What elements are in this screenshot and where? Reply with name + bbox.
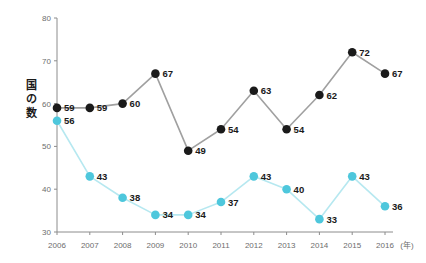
x-tick-label: 2008 — [114, 241, 132, 250]
data-point-label: 67 — [162, 68, 173, 79]
x-tick-label: 2016 — [376, 241, 394, 250]
data-point — [86, 172, 95, 181]
data-point — [86, 104, 95, 113]
data-point — [184, 146, 193, 155]
data-point-label: 49 — [195, 145, 206, 156]
data-point-label: 62 — [326, 90, 337, 101]
data-point-label: 34 — [162, 209, 173, 220]
x-tick-label: 2011 — [212, 241, 230, 250]
data-point — [151, 211, 160, 220]
data-point-label: 40 — [294, 184, 305, 195]
y-axis-title-char: 数 — [26, 106, 38, 119]
line-chart: 国の数 304050607080 20062007200820092010201… — [0, 0, 426, 263]
data-point-label: 38 — [130, 192, 141, 203]
data-point — [348, 48, 357, 57]
data-point — [348, 172, 357, 181]
x-axis-unit-label: (年) — [400, 240, 414, 250]
data-point — [184, 211, 193, 220]
data-point-label: 36 — [392, 201, 403, 212]
x-tick-label: 2006 — [48, 241, 66, 250]
data-point-label: 63 — [261, 85, 272, 96]
data-point — [250, 86, 259, 95]
y-tick-label: 40 — [42, 185, 51, 194]
x-tick-label: 2010 — [179, 241, 197, 250]
data-point — [282, 185, 291, 194]
data-point — [53, 104, 62, 113]
chart-container: 国の数 304050607080 20062007200820092010201… — [0, 0, 426, 263]
y-tick-label: 30 — [42, 228, 51, 237]
x-tick-label: 2013 — [278, 241, 296, 250]
data-point — [53, 116, 62, 125]
x-tick-label: 2012 — [245, 241, 263, 250]
data-point — [151, 69, 160, 78]
data-point-label: 60 — [130, 98, 141, 109]
data-point-label: 67 — [392, 68, 403, 79]
data-point-label: 54 — [228, 124, 239, 135]
data-point — [315, 215, 324, 224]
data-point-label: 43 — [97, 171, 108, 182]
y-tick-label: 70 — [42, 57, 51, 66]
data-point-label: 37 — [228, 197, 239, 208]
data-point — [217, 125, 226, 134]
data-point-label: 43 — [261, 171, 272, 182]
data-point-label: 56 — [64, 115, 75, 126]
y-axis-title-char: の — [26, 93, 37, 105]
y-tick-label: 50 — [42, 142, 51, 151]
data-point-label: 33 — [326, 214, 337, 225]
data-point — [250, 172, 259, 181]
data-point-label: 54 — [294, 124, 305, 135]
x-tick-label: 2015 — [343, 241, 361, 250]
y-axis-title: 国の数 — [26, 79, 38, 119]
data-point-label: 59 — [97, 102, 108, 113]
x-tick-label: 2009 — [147, 241, 165, 250]
data-point — [118, 193, 127, 202]
data-point — [381, 202, 390, 211]
y-tick-label: 60 — [42, 100, 51, 109]
data-point — [217, 198, 226, 207]
data-point — [118, 99, 127, 108]
data-point-label: 34 — [195, 209, 206, 220]
data-point-label: 43 — [359, 171, 370, 182]
data-point — [315, 91, 324, 100]
x-tick-label: 2014 — [311, 241, 329, 250]
data-point-label: 59 — [64, 102, 75, 113]
y-tick-label: 80 — [42, 14, 51, 23]
data-point-label: 72 — [359, 47, 370, 58]
data-point — [282, 125, 291, 134]
x-tick-label: 2007 — [81, 241, 99, 250]
y-axis-title-char: 国 — [26, 79, 37, 91]
data-point — [381, 69, 390, 78]
